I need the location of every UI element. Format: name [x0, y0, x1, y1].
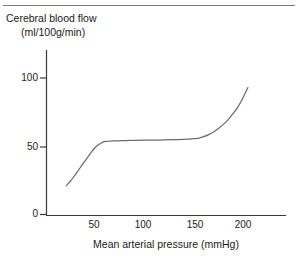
x-axis-title: Mean arterial pressure (mmHg) — [46, 238, 286, 250]
cerebral-blood-flow-autoregulation-figure: Cerebral blood flow (ml/100g/min) 100 50… — [0, 0, 298, 268]
cbf-autoregulation-curve — [66, 88, 248, 186]
x-tick-label-100: 100 — [123, 220, 163, 230]
plot-area: 100 50 0 50 100 150 200 Mean arterial pr… — [0, 0, 298, 268]
x-tick-label-150: 150 — [175, 220, 215, 230]
y-tick-label-50: 50 — [6, 142, 38, 152]
y-tick-label-0: 0 — [6, 209, 38, 219]
x-tick-label-200: 200 — [223, 220, 263, 230]
y-tick-label-100: 100 — [6, 73, 38, 83]
x-tick-label-50: 50 — [74, 220, 114, 230]
